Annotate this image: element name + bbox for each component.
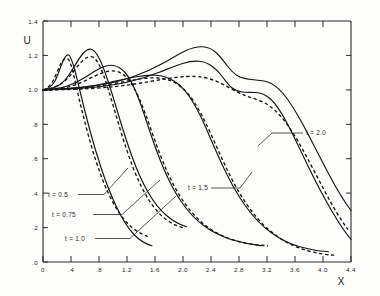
label-t20: t = 2.0: [306, 129, 326, 136]
ytick-label-0-6: .6: [32, 155, 38, 162]
xtick-label-4-0: 4.0: [318, 266, 328, 273]
curve-annotations: t = 0.5 t = 0.75 t = 1.0 t = 1.5 t = 2.0: [48, 129, 326, 242]
curves: [43, 47, 351, 255]
ytick-label-0-2: .2: [32, 224, 38, 231]
plot-frame: [43, 21, 351, 262]
xtick-label-2-4: 2.4: [206, 266, 216, 273]
ytick-label-1-4: 1.4: [28, 18, 38, 25]
label-t05: t = 0.5: [48, 191, 68, 198]
label-t075: t = 0.75: [52, 211, 76, 218]
xtick-label-3-6: 3.6: [290, 266, 300, 273]
xtick-label-1-2: 1.2: [122, 266, 132, 273]
xtick-label-2-0: 2.0: [178, 266, 188, 273]
leader-t15: [211, 172, 252, 188]
curve-t20-solid-lower: [43, 61, 351, 239]
xtick-label-0: 0: [41, 266, 45, 273]
x-tick-labels: 0 .4 .8 1.2 1.6 2.0 2.4 2.8 3.2 3.6 4.0 …: [41, 266, 356, 273]
xtick-label-4-4: 4.4: [346, 266, 356, 273]
xtick-label-2-8: 2.8: [234, 266, 244, 273]
tick-marks: [43, 21, 351, 262]
y-tick-labels: 1.4 1.2 1.0 .8 .6 .4 .2 .0: [28, 18, 38, 266]
label-t15: t = 1.5: [188, 184, 208, 191]
ytick-label-0-0: .0: [32, 259, 38, 266]
ytick-label-0-8: .8: [32, 121, 38, 128]
curve-t15-solid: [43, 75, 329, 252]
y-axis-title: U: [23, 35, 30, 46]
ytick-label-1-0: 1.0: [28, 86, 38, 93]
curve-t10-dashed: [43, 71, 268, 246]
xtick-label-0-8: .8: [96, 266, 102, 273]
curve-t075-solid: [43, 49, 187, 227]
leader-t075: [93, 180, 160, 215]
plot-svg: 1.4 1.2 1.0 .8 .6 .4 .2 .0 0 .4 .8 1.2 1…: [0, 0, 380, 296]
ytick-label-0-4: .4: [32, 190, 38, 197]
xtick-label-1-6: 1.6: [150, 266, 160, 273]
xtick-label-0-4: .4: [68, 266, 74, 273]
ytick-label-1-2: 1.2: [28, 52, 38, 59]
xtick-label-3-2: 3.2: [262, 266, 272, 273]
x-axis-title: X: [338, 276, 345, 287]
figure-container: 1.4 1.2 1.0 .8 .6 .4 .2 .0 0 .4 .8 1.2 1…: [0, 0, 380, 296]
label-t10: t = 1.0: [65, 235, 85, 242]
